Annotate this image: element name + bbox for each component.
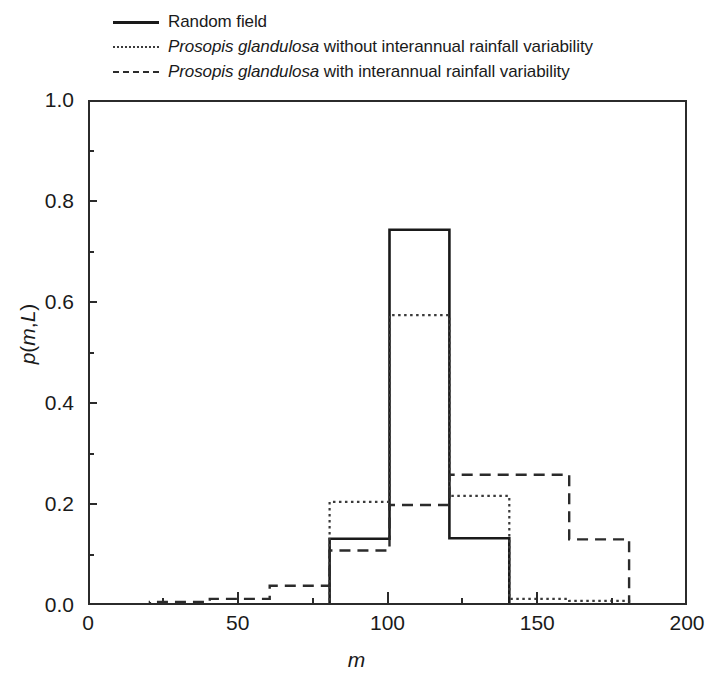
- y-tick-major-2: [88, 402, 97, 404]
- y-tick-minor-3: [88, 251, 94, 253]
- y-tick-minor-0: [88, 554, 94, 556]
- figure-histogram-pml: Random field Prosopis glandulosa without…: [0, 0, 713, 681]
- legend-key-solid-line-icon: [113, 15, 159, 29]
- series-path-dotted: [90, 315, 687, 605]
- x-tick-label-2: 100: [353, 612, 423, 633]
- y-tick-minor-2: [88, 352, 94, 354]
- legend-label-rest-without: without interannual rainfall variability: [319, 37, 593, 56]
- legend-label-without-variability: Prosopis glandulosa without interannual …: [168, 37, 593, 56]
- legend-species-name-without: Prosopis glandulosa: [168, 37, 319, 56]
- legend-key-dashed-line-icon: [113, 65, 159, 79]
- x-tick-major-1: [237, 592, 239, 605]
- y-tick-minor-1: [88, 453, 94, 455]
- y-tick-major-4: [88, 200, 97, 202]
- legend-key-dotted-line-icon: [113, 40, 159, 54]
- legend: Random field Prosopis glandulosa without…: [113, 9, 693, 84]
- x-tick-label-0: 0: [53, 612, 123, 633]
- y-tick-label-1: 0.2: [0, 493, 74, 514]
- x-tick-minor-1: [312, 598, 314, 605]
- series-layer: [90, 102, 685, 603]
- y-axis-label: p(m,L): [16, 254, 40, 414]
- x-tick-minor-0: [162, 598, 164, 605]
- x-tick-minor-2: [461, 598, 463, 605]
- legend-label-random-field: Random field: [168, 12, 267, 31]
- series-path-solid: [90, 230, 687, 605]
- x-tick-major-3: [536, 592, 538, 605]
- plot-area: [88, 100, 687, 605]
- y-tick-label-4: 0.8: [0, 190, 74, 211]
- x-tick-label-1: 50: [203, 612, 273, 633]
- legend-label-with-variability: Prosopis glandulosa with interannual rai…: [168, 62, 570, 81]
- x-tick-major-2: [387, 592, 389, 605]
- x-tick-minor-3: [611, 598, 613, 605]
- legend-label-rest-with: with interannual rainfall variability: [319, 62, 569, 81]
- legend-species-name-with: Prosopis glandulosa: [168, 62, 319, 81]
- x-tick-label-4: 200: [652, 612, 713, 633]
- y-tick-label-5: 1.0: [0, 89, 74, 110]
- x-tick-label-3: 150: [502, 612, 572, 633]
- legend-entry-without-variability: Prosopis glandulosa without interannual …: [113, 34, 693, 59]
- y-tick-minor-4: [88, 150, 94, 152]
- legend-entry-with-variability: Prosopis glandulosa with interannual rai…: [113, 59, 693, 84]
- legend-entry-random-field: Random field: [113, 9, 693, 34]
- series-svg: [90, 102, 687, 605]
- y-tick-major-1: [88, 503, 97, 505]
- x-axis-label: m: [0, 648, 713, 672]
- y-tick-major-3: [88, 301, 97, 303]
